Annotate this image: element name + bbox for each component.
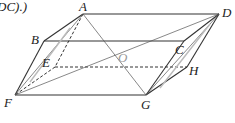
label-H: H [188,63,199,78]
label-D: D [221,5,232,20]
diagonal-AG [83,14,146,95]
label-G: G [141,97,151,112]
caption-fragment: DC).) [0,0,27,14]
label-C: C [175,42,184,57]
label-A: A [78,0,87,14]
edge-DH [187,14,219,67]
edge-GH [146,67,187,95]
label-F: F [3,95,13,110]
parallelepiped-diagram: DC).) A D B C E H F G O [0,0,235,123]
label-B: B [31,32,39,47]
edge-DC [184,14,219,41]
label-E: E [41,55,50,70]
shade-line-right [160,24,210,88]
label-O: O [118,50,128,65]
